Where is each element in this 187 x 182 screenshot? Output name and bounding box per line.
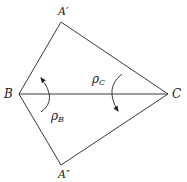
label-a-double-prime: A″ bbox=[57, 168, 71, 181]
edge-b-a-double-prime bbox=[19, 94, 61, 165]
label-a-prime: A′ bbox=[57, 5, 69, 18]
label-c: C bbox=[172, 87, 181, 101]
label-rho-b: ρB bbox=[50, 109, 64, 124]
rotation-arrow-c-icon bbox=[112, 74, 122, 111]
rotation-arrow-b-icon bbox=[41, 78, 50, 112]
label-b: B bbox=[3, 87, 13, 101]
kite-diagram: A′ B C A″ ρC ρB bbox=[0, 0, 187, 182]
label-rho-c: ρC bbox=[91, 72, 105, 87]
edge-b-a-prime bbox=[19, 22, 61, 94]
edges bbox=[19, 22, 168, 165]
